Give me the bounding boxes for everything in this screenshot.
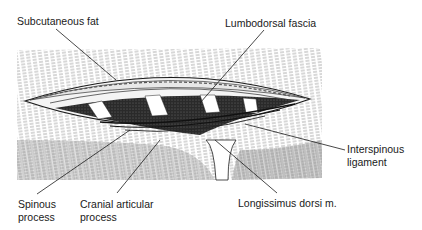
anatomical-illustration xyxy=(0,0,422,230)
label-spinous-process-line2: process xyxy=(18,211,55,223)
label-interspinous-ligament-line2: ligament xyxy=(347,156,387,168)
label-longissimus-dorsi: Longissimus dorsi m. xyxy=(238,197,337,209)
label-cranial-articular-process-line2: process xyxy=(80,211,117,223)
label-lumbodorsal-fascia: Lumbodorsal fascia xyxy=(225,17,316,29)
label-subcutaneous-fat: Subcutaneous fat xyxy=(17,15,99,27)
label-spinous-process-line1: Spinous xyxy=(18,198,56,210)
label-interspinous-ligament-line1: Interspinous xyxy=(347,143,404,155)
label-cranial-articular-process-line1: Cranial articular xyxy=(80,198,154,210)
